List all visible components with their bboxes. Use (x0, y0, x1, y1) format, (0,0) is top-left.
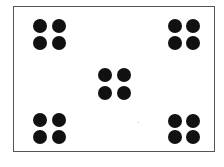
dot-top-left (52, 36, 66, 50)
dot-bottom-right (186, 130, 200, 144)
dot-bottom-left (52, 113, 66, 127)
dot-bottom-right (168, 130, 182, 144)
dot-center (98, 68, 112, 82)
dot-top-right (186, 19, 200, 33)
dot-top-left (33, 19, 47, 33)
dot-bottom-left (33, 130, 47, 144)
dot-center (117, 86, 131, 100)
dot-bottom-left (33, 113, 47, 127)
dot-bottom-left (52, 130, 66, 144)
dot-top-left (33, 36, 47, 50)
dot-center (98, 86, 112, 100)
speck (138, 122, 139, 123)
dot-center (117, 68, 131, 82)
dot-top-right (168, 36, 182, 50)
dot-top-right (186, 36, 200, 50)
dot-top-right (168, 19, 182, 33)
dot-bottom-right (186, 114, 200, 128)
dot-top-left (52, 19, 66, 33)
dot-bottom-right (168, 114, 182, 128)
